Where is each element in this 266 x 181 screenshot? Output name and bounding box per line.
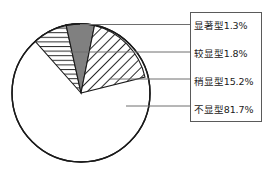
legend-item-obvious: 显著型1.3% [194, 19, 262, 33]
legend-item-fairly-obvious: 较显型1.8% [194, 47, 262, 61]
legend-item-not-obvious: 不显型81.7% [194, 103, 262, 117]
legend-box: 显著型1.3% 较显型1.8% 稍显型15.2% 不显型81.7% [190, 12, 262, 122]
pie-chart-figure: 显著型1.3% 较显型1.8% 稍显型15.2% 不显型81.7% [0, 0, 266, 181]
legend-item-slightly-obvious: 稍显型15.2% [194, 75, 262, 89]
